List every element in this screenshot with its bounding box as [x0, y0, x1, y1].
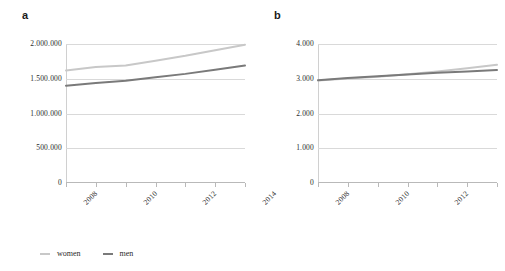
x-tick-label: 2012: [201, 189, 219, 207]
x-axis-labels-b: 2008201020122014: [318, 187, 497, 227]
y-tick-label: 1.500.000: [30, 74, 62, 83]
y-tick-label: 0: [58, 178, 62, 187]
y-tick-label: 2.000: [296, 109, 314, 118]
panel-label-b: b: [274, 9, 281, 21]
x-tick-label: 2010: [141, 189, 159, 207]
plot-area-b: [318, 44, 497, 183]
y-tick-label: 4.000: [296, 39, 314, 48]
y-tick-label: 2.000.000: [30, 39, 62, 48]
series-lines: [66, 44, 245, 183]
legend-item-women: women: [40, 250, 81, 258]
legend-swatch-women: [40, 253, 50, 255]
series-line-men: [66, 66, 245, 86]
legend-swatch-men: [103, 253, 113, 255]
y-tick-label: 1.000: [296, 143, 314, 152]
legend-label: women: [57, 250, 81, 258]
chart-panel-a: a 0500.0001.000.0001.500.0002.000.000 20…: [0, 0, 253, 240]
x-tick-label: 2008: [82, 189, 100, 207]
x-tick-mark: [245, 183, 246, 187]
figure-panels: a 0500.0001.000.0001.500.0002.000.000 20…: [0, 0, 505, 240]
panel-label-a: a: [22, 9, 28, 21]
legend-label: men: [120, 250, 134, 258]
y-axis-labels-b: 01.0002.0003.0004.000: [252, 44, 314, 183]
y-tick-label: 0: [310, 178, 314, 187]
chart-legend: womenmen: [0, 243, 505, 265]
x-tick-label: 2012: [453, 189, 471, 207]
legend-item-men: men: [103, 250, 134, 258]
plot-area-a: [66, 44, 245, 183]
series-lines: [318, 44, 497, 183]
x-tick-label: 2010: [393, 189, 411, 207]
x-axis-labels-a: 2008201020122014: [66, 187, 245, 227]
series-line-men: [318, 70, 497, 80]
y-tick-label: 1.000.000: [30, 109, 62, 118]
chart-panel-b: b 01.0002.0003.0004.000 2008201020122014: [252, 0, 505, 240]
x-tick-mark: [497, 183, 498, 187]
series-line-women: [66, 45, 245, 71]
y-tick-label: 3.000: [296, 74, 314, 83]
x-tick-label: 2008: [334, 189, 352, 207]
y-tick-label: 500.000: [36, 143, 62, 152]
y-axis-labels-a: 0500.0001.000.0001.500.0002.000.000: [0, 44, 62, 183]
